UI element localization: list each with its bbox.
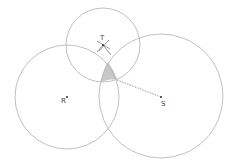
label-t: T: [99, 34, 105, 42]
t-radius-line-left: [97, 45, 103, 52]
point-t: [102, 44, 104, 46]
t-radius-line-right: [103, 45, 111, 55]
point-r: [66, 96, 68, 98]
circle-diagram: R S T: [0, 0, 228, 166]
label-s: S: [161, 100, 166, 108]
point-s: [160, 96, 162, 98]
label-r: R: [61, 97, 66, 105]
dashed-segment: [117, 80, 161, 97]
